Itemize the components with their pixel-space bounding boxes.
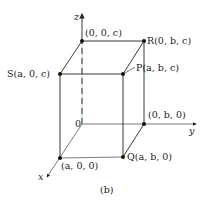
x-axis-label: x bbox=[38, 171, 44, 182]
origin-label: 0 bbox=[75, 118, 81, 129]
z-axis-label: z bbox=[73, 11, 80, 22]
point-0-b-0-label: (0, b, 0) bbox=[148, 109, 186, 120]
y-axis-label: y bbox=[188, 125, 195, 136]
point-Q-label: Q(a, b, 0) bbox=[127, 151, 172, 162]
point-0-0-c-label: (0, 0, c) bbox=[85, 27, 122, 38]
point-a-0-0-label: (a, 0, 0) bbox=[61, 160, 98, 171]
point-R-label: R(0, b, c) bbox=[147, 35, 191, 46]
point-P-label: P(a, b, c) bbox=[136, 62, 179, 73]
diagram-svg: z y x 0 (0, 0, c) R(0, b, c) S(a, 0, c) … bbox=[0, 0, 204, 207]
box-diagram: z y x 0 (0, 0, c) R(0, b, c) S(a, 0, c) … bbox=[0, 0, 204, 207]
point-S-label: S(a, 0, c) bbox=[7, 68, 50, 79]
figure-caption: (b) bbox=[100, 184, 114, 195]
